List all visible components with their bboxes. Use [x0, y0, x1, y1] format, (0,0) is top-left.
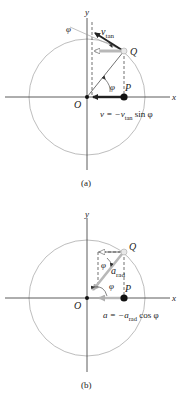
origin-label: O: [74, 99, 81, 110]
point-P-label: P: [124, 283, 131, 294]
top-angle-label: φ: [66, 24, 71, 34]
y-axis-label: y: [84, 7, 89, 17]
panel-b: y x O P Q φ φ arad a = −arad cos φ (b): [5, 209, 176, 390]
point-Q-label: Q: [130, 46, 138, 57]
y-axis-label: y: [84, 209, 89, 219]
point-Q-label: Q: [129, 241, 137, 252]
radius-line: [87, 51, 124, 97]
tangent-guide-line: [70, 27, 124, 51]
x-axis-label: x: [171, 92, 176, 102]
origin-label: O: [74, 300, 81, 311]
point-Q: [121, 249, 127, 255]
point-P: [120, 93, 127, 100]
equation-label: v = −vtan sin φ: [100, 109, 153, 121]
point-Q: [121, 48, 127, 54]
angle-label: φ: [110, 82, 115, 92]
point-P-label: P: [124, 82, 131, 93]
angle-label: φ: [109, 281, 114, 291]
caption-a: (a): [81, 178, 91, 188]
caption-b: (b): [81, 380, 92, 390]
a-rad-label: arad: [111, 265, 125, 279]
origin-dot: [85, 296, 89, 300]
top-angle-label: φ: [101, 260, 106, 270]
x-axis-label: x: [171, 293, 176, 303]
point-P: [120, 294, 127, 301]
origin-dot: [85, 95, 89, 99]
equation-label: a = −arad cos φ: [103, 310, 159, 322]
panel-a: y x O P Q φ φ vtan v = −vtan sin φ (a): [5, 7, 176, 188]
diagram-canvas: y x O P Q φ φ vtan v = −vtan sin φ (a) y: [0, 0, 188, 405]
